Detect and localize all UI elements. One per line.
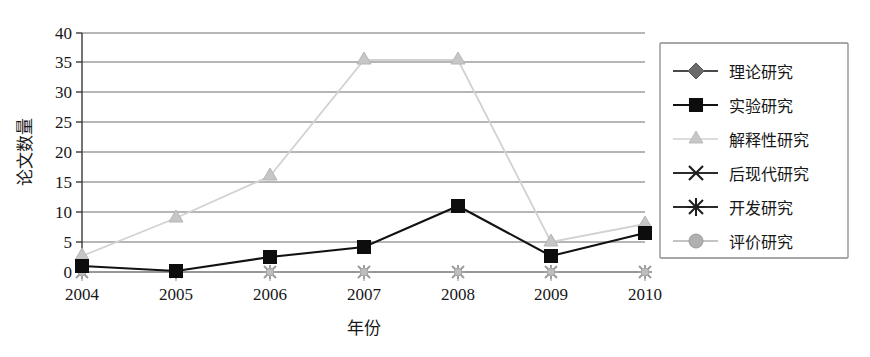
- y-axis-title: 论文数量: [16, 118, 35, 186]
- legend-label: 评价研究: [729, 234, 793, 251]
- x-axis-labels: 2004 2005 2006 2007 2008 2009 2010: [65, 285, 662, 304]
- y-tick-label: 40: [55, 24, 72, 43]
- y-tick-label: 30: [55, 83, 72, 102]
- y-tick-label: 35: [55, 53, 72, 72]
- x-tick-label: 2008: [441, 285, 475, 304]
- circle-marker-icon: [689, 234, 703, 248]
- y-tick-label: 0: [64, 263, 73, 282]
- y-tick-label: 5: [64, 233, 73, 252]
- square-marker-icon: [689, 98, 703, 112]
- legend-label: 解释性研究: [729, 132, 809, 149]
- x-axis-title: 年份: [347, 319, 381, 338]
- y-tick-label: 20: [55, 143, 72, 162]
- series-interpretive: [75, 52, 652, 260]
- y-axis-labels: 40 35 30 25 20 15 10 5 0: [55, 24, 72, 282]
- x-tick-label: 2007: [347, 285, 382, 304]
- legend-label: 开发研究: [729, 200, 793, 217]
- x-tick-label: 2006: [253, 285, 287, 304]
- y-tick-label: 25: [55, 113, 72, 132]
- gridlines: [82, 33, 645, 272]
- legend-label: 后现代研究: [729, 166, 809, 183]
- legend-label: 实验研究: [729, 98, 793, 115]
- x-tick-label: 2005: [159, 285, 193, 304]
- chart-svg: 40 35 30 25 20 15 10 5 0 2004 2005 2006 …: [0, 0, 870, 357]
- y-tick-label: 10: [55, 203, 72, 222]
- x-tick-label: 2009: [534, 285, 568, 304]
- x-tick-label: 2004: [65, 285, 100, 304]
- legend: 理论研究 实验研究 解释性研究 后现代研究: [660, 43, 848, 258]
- y-tick-label: 15: [55, 173, 72, 192]
- chart-figure: 40 35 30 25 20 15 10 5 0 2004 2005 2006 …: [0, 0, 870, 357]
- asterisk-marker-icon: [687, 198, 705, 216]
- x-tick-label: 2010: [628, 285, 662, 304]
- legend-label: 理论研究: [729, 64, 793, 81]
